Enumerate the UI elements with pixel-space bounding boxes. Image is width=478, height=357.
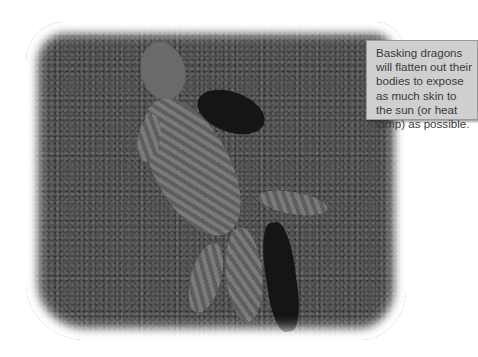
- figure: Basking dragons will flatten out their b…: [0, 0, 478, 357]
- bearded-dragon-photo: [26, 22, 406, 340]
- lizard-tail-lower: [182, 239, 230, 316]
- lizard-tail-upper: [222, 226, 266, 324]
- lizard-head: [134, 37, 192, 104]
- lizard-back-leg: [257, 186, 330, 220]
- caption-text: Basking dragons will flatten out their b…: [376, 46, 473, 131]
- caption-callout: Basking dragons will flatten out their b…: [366, 40, 478, 120]
- lizard-shadow-tail: [258, 220, 303, 333]
